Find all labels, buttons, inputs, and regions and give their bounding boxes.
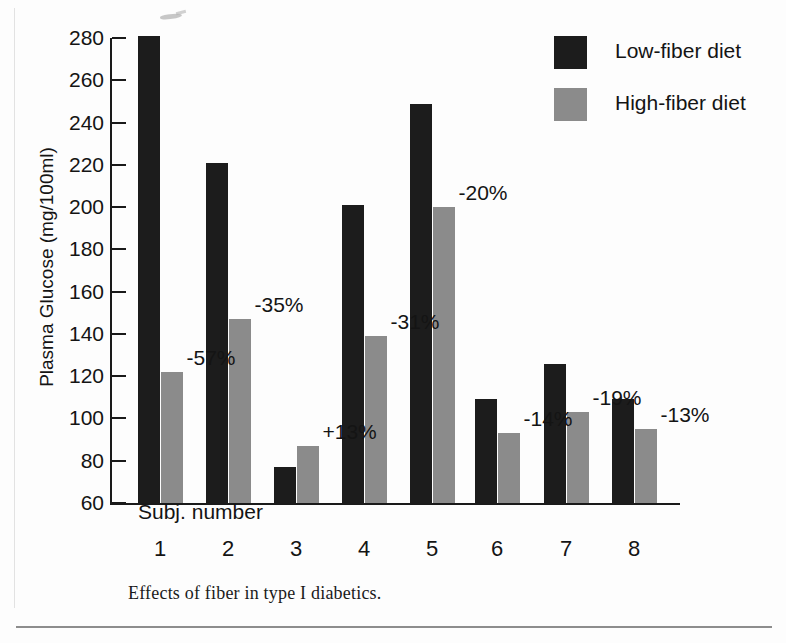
x-axis-tick-label-5: 5 — [412, 536, 452, 562]
y-axis-tick — [112, 333, 126, 335]
y-axis-tick-label: 140 — [38, 323, 104, 344]
y-axis-tick-value: 260 — [44, 69, 104, 90]
y-axis-tick-value: 60 — [44, 492, 104, 513]
y-axis-tick-value: 160 — [44, 281, 104, 302]
y-axis-tick — [112, 122, 126, 124]
bar-low-fiber-subject-8 — [612, 399, 634, 503]
y-axis-tick — [112, 206, 126, 208]
y-axis-tick — [112, 79, 126, 81]
y-axis-tick-label: 100 — [38, 407, 104, 428]
percent-change-label-subject-3: +13% — [323, 420, 377, 444]
legend-swatch-icon-high-fiber — [554, 88, 587, 121]
y-axis-tick-value: 80 — [44, 450, 104, 471]
x-axis-tick-label-8: 8 — [614, 536, 654, 562]
y-axis-tick-value: 220 — [44, 154, 104, 175]
bar-high-fiber-subject-6 — [498, 433, 520, 503]
bar-high-fiber-subject-1 — [161, 372, 183, 503]
y-axis-tick-label: 120 — [38, 365, 104, 386]
percent-change-label-subject-1: -57% — [187, 346, 236, 370]
bar-low-fiber-subject-7 — [544, 364, 566, 504]
y-axis-tick — [112, 502, 126, 504]
bar-low-fiber-subject-1 — [138, 36, 160, 503]
percent-change-label-subject-5: -20% — [459, 181, 508, 205]
y-axis-tick — [112, 375, 126, 377]
y-axis-line — [110, 38, 112, 505]
y-axis-tick-value: 120 — [44, 365, 104, 386]
x-axis-title: Subj. number — [138, 500, 263, 524]
figure-panel: Plasma Glucose (mg/100ml) 28026024022020… — [0, 0, 786, 643]
bar-low-fiber-subject-2 — [206, 163, 228, 503]
bar-low-fiber-subject-5 — [410, 104, 432, 503]
y-axis-tick-label: 200 — [38, 196, 104, 217]
y-axis-tick-label: 280 — [38, 27, 104, 48]
bar-high-fiber-subject-5 — [433, 207, 455, 503]
legend-label-low-fiber: Low-fiber diet — [615, 39, 741, 63]
y-axis-tick-value: 280 — [44, 27, 104, 48]
bar-low-fiber-subject-6 — [475, 399, 497, 503]
percent-change-label-subject-8: -13% — [661, 403, 710, 427]
x-axis-tick-label-2: 2 — [208, 536, 248, 562]
y-axis-tick-value: 140 — [44, 323, 104, 344]
bar-low-fiber-subject-3 — [274, 467, 296, 503]
y-axis-tick-label: 80 — [38, 450, 104, 471]
legend-item-low-fiber: Low-fiber diet — [554, 34, 784, 86]
y-axis-tick-label: 240 — [38, 112, 104, 133]
figure-caption: Effects of fiber in type I diabetics. — [128, 583, 381, 604]
x-axis-tick-label-6: 6 — [477, 536, 517, 562]
percent-change-label-subject-2: -35% — [255, 293, 304, 317]
percent-change-label-subject-4: -31% — [391, 310, 440, 334]
y-axis-tick — [112, 417, 126, 419]
y-axis-tick-label: 160 — [38, 281, 104, 302]
x-axis-tick-label-4: 4 — [344, 536, 384, 562]
y-axis-tick-label: 180 — [38, 238, 104, 259]
legend-item-high-fiber: High-fiber diet — [554, 86, 784, 138]
y-axis-tick-value: 240 — [44, 112, 104, 133]
y-axis-tick — [112, 164, 126, 166]
y-axis-tick-value: 200 — [44, 196, 104, 217]
y-axis-tick — [112, 460, 126, 462]
y-axis-tick-value: 180 — [44, 238, 104, 259]
percent-change-label-subject-6: -14% — [524, 407, 573, 431]
y-axis-tick — [112, 248, 126, 250]
y-axis-tick-label: 260 — [38, 69, 104, 90]
percent-change-label-subject-7: -19% — [593, 386, 642, 410]
chart-legend: Low-fiber diet High-fiber diet — [554, 34, 784, 138]
bar-high-fiber-subject-8 — [635, 429, 657, 503]
y-axis-tick-label: 220 — [38, 154, 104, 175]
x-axis-tick-label-7: 7 — [546, 536, 586, 562]
bar-high-fiber-subject-3 — [297, 446, 319, 503]
bar-low-fiber-subject-4 — [342, 205, 364, 503]
legend-swatch-icon-low-fiber — [554, 36, 587, 69]
bar-chart-plot-area: Plasma Glucose (mg/100ml) 28026024022020… — [0, 0, 786, 643]
y-axis-tick — [112, 291, 126, 293]
x-axis-tick-label-1: 1 — [140, 536, 180, 562]
y-axis-tick-label: 60 — [38, 492, 104, 513]
y-axis-tick-value: 100 — [44, 407, 104, 428]
y-axis-tick — [112, 37, 126, 39]
bottom-divider — [16, 626, 772, 628]
x-axis-tick-label-3: 3 — [276, 536, 316, 562]
legend-label-high-fiber: High-fiber diet — [615, 91, 746, 115]
